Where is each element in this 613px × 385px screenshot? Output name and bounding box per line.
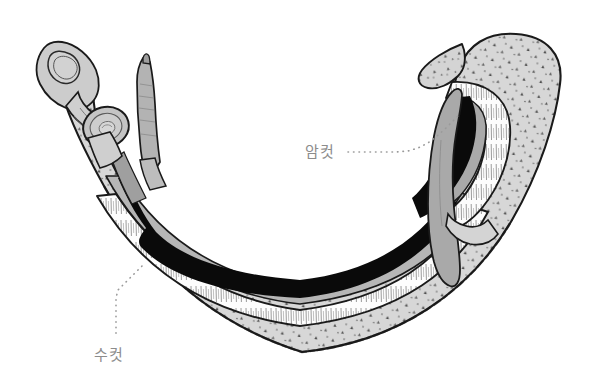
label-male-text: 수컷 (94, 346, 123, 364)
leader-line-male (116, 266, 142, 338)
female-anterior-junction (140, 158, 166, 190)
female-anterior-shaft (137, 57, 160, 174)
label-female-text: 암컷 (305, 143, 334, 161)
schistosome-illustration: 암컷 수컷 (0, 0, 613, 385)
female-anterior-end (137, 54, 166, 190)
female-anterior-tip (143, 54, 150, 64)
label-male[interactable]: 수컷 (94, 266, 142, 364)
figure-container: 암컷 수컷 (0, 0, 613, 385)
